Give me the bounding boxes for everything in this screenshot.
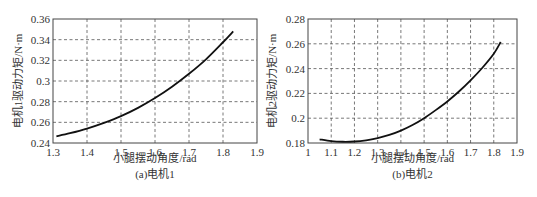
y-tick-label: 0.18 (286, 137, 306, 149)
x-tick-label: 1.4 (80, 146, 94, 158)
y-axis-label: 电机1驱动力矩/N·m (11, 33, 24, 128)
y-tick-label: 0.26 (31, 116, 51, 128)
y-tick-label: 0.22 (286, 87, 305, 99)
y-tick-label: 0.28 (286, 13, 306, 25)
chart-panel-motor2: 11.11.21.31.41.51.61.71.81.90.180.20.220… (265, 13, 524, 181)
y-axis-label: 电机2驱动力矩/N·m (265, 33, 278, 128)
y-tick-label: 0.28 (31, 96, 51, 108)
x-axis-label: 小腿摆动角度/rad (113, 151, 197, 164)
y-tick-label: 0.24 (286, 63, 306, 75)
y-tick-label: 0.3 (36, 75, 50, 87)
x-tick-label: 1.1 (324, 146, 338, 158)
x-tick-label: 1.2 (348, 146, 362, 158)
chart-caption: (a)电机1 (135, 167, 175, 181)
y-tick-label: 0.36 (31, 13, 51, 25)
y-tick-label: 0.34 (31, 34, 51, 46)
chart-panel-motor1: 1.31.41.51.61.71.81.90.240.260.280.30.32… (11, 13, 264, 181)
y-tick-label: 0.24 (31, 137, 51, 149)
x-tick-label: 1 (305, 146, 311, 158)
x-tick-label: 1.9 (510, 146, 524, 158)
x-axis-label: 小腿摆动角度/rad (371, 151, 455, 164)
x-tick-label: 1.9 (250, 146, 264, 158)
chart-canvas: 1.31.41.51.61.71.81.90.240.260.280.30.32… (0, 0, 537, 197)
y-tick-label: 0.2 (291, 112, 305, 124)
series-line-1 (56, 31, 233, 136)
y-tick-label: 0.26 (286, 38, 306, 50)
series-line-2 (320, 42, 501, 142)
x-tick-label: 1.8 (487, 146, 501, 158)
y-tick-label: 0.32 (31, 54, 50, 66)
x-tick-label: 1.7 (464, 146, 478, 158)
x-tick-label: 1.8 (216, 146, 230, 158)
chart-caption: (b)电机2 (392, 167, 432, 181)
